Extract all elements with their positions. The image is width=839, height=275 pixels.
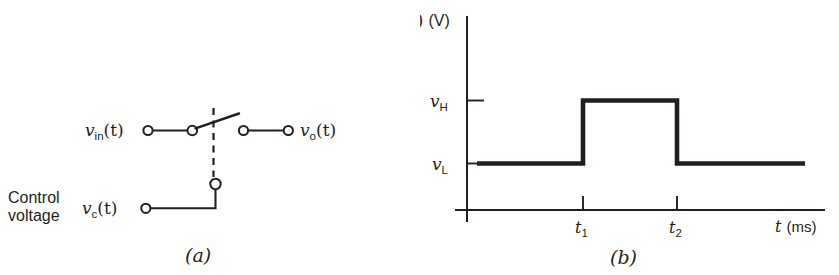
v-o-label: vo(t) xyxy=(300,120,336,142)
output-terminal-circle-icon xyxy=(284,126,293,135)
circuit-svg: vin(t) vo(t) xyxy=(0,0,420,275)
y-tick-label-vl: vL xyxy=(432,154,449,176)
panel-a-caption: (a) xyxy=(185,244,211,266)
switch-right-contact-circle-icon xyxy=(239,126,248,135)
switch-blade-icon xyxy=(196,114,240,129)
x-axis-label: t(ms) xyxy=(775,217,816,236)
control-wire xyxy=(151,189,216,208)
y-tick-label-vh: vH xyxy=(430,91,448,113)
control-voltage-label-line1: Control xyxy=(8,189,60,206)
v-in-label: vin(t) xyxy=(85,120,124,142)
panel-b-waveform-plot: vc(t)(V) vH vL t1 t2 xyxy=(420,0,839,275)
x-tick-label-t1: t1 xyxy=(575,218,588,239)
waveform-trace xyxy=(477,101,805,164)
y-axis-label: vc(t)(V) xyxy=(420,10,450,32)
v-c-label: vc(t) xyxy=(82,198,117,220)
control-terminal-circle-icon xyxy=(141,204,150,213)
input-terminal-circle-icon xyxy=(143,126,152,135)
waveform-svg: vc(t)(V) vH vL t1 t2 xyxy=(420,0,839,275)
x-tick-label-t2: t2 xyxy=(669,218,682,239)
panel-a-circuit-diagram: vin(t) vo(t) xyxy=(0,0,420,275)
control-node-circle-icon xyxy=(210,179,220,189)
panel-b-caption: (b) xyxy=(610,246,637,268)
control-voltage-label-line2: voltage xyxy=(8,207,60,224)
figure-container: vin(t) vo(t) xyxy=(0,0,839,275)
